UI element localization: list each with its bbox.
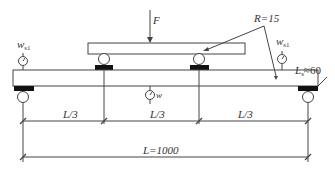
specimen-beam <box>13 70 318 86</box>
dial-gauge-left-icon <box>19 53 28 70</box>
dial-gauge-right-icon <box>278 51 287 70</box>
support-length-leader <box>318 77 327 86</box>
support-roller-left <box>18 92 29 103</box>
roller-radius-label: R=15 <box>253 12 280 24</box>
total-span-label: L=1000 <box>142 144 179 156</box>
four-point-bending-diagram: F R=15 ws1 ws1 w Ls≈60 L/3 L/3 L/3 L=100… <box>0 0 335 173</box>
support-length-label: Ls≈60 <box>294 64 321 78</box>
support-pad-right <box>298 86 318 91</box>
load-roller-left <box>99 54 110 65</box>
force-label: F <box>152 14 160 26</box>
span-third-1-label: L/3 <box>62 108 78 120</box>
dial-gauge-mid-icon <box>146 86 155 104</box>
loading-beam <box>88 43 245 54</box>
load-roller-right <box>194 54 205 65</box>
deflection-midspan-label: w <box>156 90 162 100</box>
support-pad-left <box>14 86 34 91</box>
span-third-3-label: L/3 <box>237 108 253 120</box>
deflection-support-right-label: ws1 <box>276 35 290 49</box>
span-third-2-label: L/3 <box>149 108 165 120</box>
load-pad-right <box>190 65 209 70</box>
support-roller-right <box>303 92 314 103</box>
roller-radius-text: R=15 <box>253 12 280 24</box>
load-pad-left <box>95 65 113 70</box>
deflection-support-left-label: ws1 <box>17 38 31 52</box>
